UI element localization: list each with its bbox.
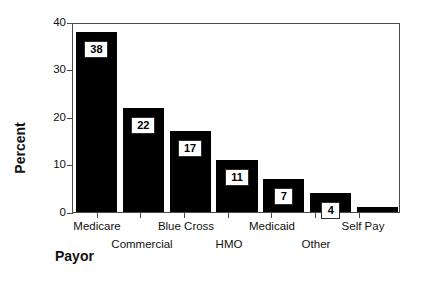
x-tick-mark-other xyxy=(315,213,316,218)
bar-hmo xyxy=(216,160,257,212)
x-label-medicare: Medicare xyxy=(73,220,120,232)
bar-value-medicare: 38 xyxy=(84,41,108,58)
x-label-other: Other xyxy=(302,238,331,250)
plot-area: 38 22 17 11 7 4 xyxy=(72,23,400,213)
bar-medicare xyxy=(76,32,117,213)
x-axis-title: Payor xyxy=(55,248,94,264)
bar-chart: Percent Payor 40 30 20 10 0 38 22 17 11 … xyxy=(0,0,428,282)
x-label-medicaid: Medicaid xyxy=(249,220,295,232)
x-tick-mark-hmo xyxy=(228,213,229,218)
x-tick-mark-blue-cross xyxy=(184,213,185,218)
x-tick-mark-medicare xyxy=(97,213,98,218)
bar-value-blue-cross: 17 xyxy=(178,140,202,157)
y-tick-label-30: 30 xyxy=(36,63,66,75)
y-tick-label-40: 40 xyxy=(36,16,66,28)
y-axis-title: Percent xyxy=(12,108,28,188)
bar-self-pay xyxy=(357,207,398,212)
y-tick-mark-0 xyxy=(67,213,73,214)
x-label-hmo: HMO xyxy=(216,238,243,250)
x-label-commercial: Commercial xyxy=(111,238,172,250)
bar-value-other: 4 xyxy=(321,202,340,219)
y-tick-label-0: 0 xyxy=(36,206,66,218)
y-tick-label-10: 10 xyxy=(36,158,66,170)
bar-value-medicaid: 7 xyxy=(274,188,293,205)
x-label-self-pay: Self Pay xyxy=(342,220,385,232)
x-label-blue-cross: Blue Cross xyxy=(158,220,214,232)
bar-value-commercial: 22 xyxy=(131,117,155,134)
y-tick-label-20: 20 xyxy=(36,111,66,123)
bar-value-hmo: 11 xyxy=(225,169,249,186)
x-tick-mark-medicaid xyxy=(271,213,272,218)
x-tick-mark-commercial xyxy=(140,213,141,218)
x-tick-mark-self-pay xyxy=(359,213,360,218)
